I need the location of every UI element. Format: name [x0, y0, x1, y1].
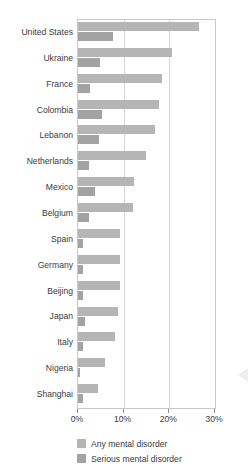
bars-layer: [78, 20, 215, 408]
bar: [78, 384, 98, 393]
bar: [78, 368, 80, 377]
bar: [78, 161, 89, 170]
bar-group: [78, 227, 215, 253]
bar-group: [78, 149, 215, 175]
bar: [78, 342, 83, 351]
bar: [78, 151, 146, 160]
category-label: Nigeria: [0, 363, 73, 373]
bar-group: [78, 305, 215, 331]
bar: [78, 74, 162, 83]
x-tick-mark: [168, 409, 169, 413]
bar: [78, 135, 99, 144]
category-label: Mexico: [0, 182, 73, 192]
x-tick-label: 0%: [71, 414, 83, 424]
bar-group: [78, 123, 215, 149]
category-label: Shanghai: [0, 389, 73, 399]
bar-group: [78, 356, 215, 382]
bar-group: [78, 201, 215, 227]
x-tick-mark: [214, 409, 215, 413]
legend-label: Serious mental disorder: [91, 454, 182, 464]
bar-group: [78, 20, 215, 46]
bar-group: [78, 72, 215, 98]
bar: [78, 239, 83, 248]
bar-group: [78, 330, 215, 356]
category-label: Germany: [0, 260, 73, 270]
category-label: Japan: [0, 311, 73, 321]
bar: [78, 100, 159, 109]
bar: [78, 58, 100, 67]
plot-area: [77, 19, 216, 409]
bar-group: [78, 382, 215, 408]
bar: [78, 177, 134, 186]
category-label: United States: [0, 27, 73, 37]
x-tick-label: 10%: [114, 414, 131, 424]
category-label: France: [0, 79, 73, 89]
category-label: Netherlands: [0, 156, 73, 166]
bar: [78, 307, 118, 316]
bar: [78, 394, 83, 403]
bar: [78, 110, 102, 119]
bar: [78, 332, 115, 341]
category-label: Colombia: [0, 105, 73, 115]
bar: [78, 84, 90, 93]
x-tick-label: 30%: [205, 414, 222, 424]
category-label: Spain: [0, 234, 73, 244]
bar-group: [78, 253, 215, 279]
bar-group: [78, 46, 215, 72]
bar: [78, 22, 199, 31]
category-label: Italy: [0, 337, 73, 347]
x-axis: 0%10%20%30%: [77, 409, 216, 429]
category-label: Lebanon: [0, 130, 73, 140]
bar-group: [78, 279, 215, 305]
cropped-title-fragment: · ·: [130, 0, 140, 2]
chart-legend: Any mental disorderSerious mental disord…: [77, 437, 248, 467]
bar: [78, 255, 120, 264]
bar: [78, 291, 83, 300]
x-tick-mark: [77, 409, 78, 413]
bar: [78, 32, 113, 41]
cropped-top-text: · ·: [0, 0, 248, 12]
x-tick-label: 20%: [160, 414, 177, 424]
legend-item[interactable]: Serious mental disorder: [77, 452, 248, 465]
category-label: Beijing: [0, 286, 73, 296]
bar: [78, 265, 83, 274]
chart-figure: · · United StatesUkraineFranceColombiaLe…: [0, 0, 248, 475]
bar-group: [78, 98, 215, 124]
category-axis-labels: United StatesUkraineFranceColombiaLebano…: [0, 19, 73, 409]
bar: [78, 48, 172, 57]
bar: [78, 125, 155, 134]
legend-label: Any mental disorder: [91, 439, 167, 449]
bar: [78, 317, 85, 326]
category-label: Belgium: [0, 208, 73, 218]
bar: [78, 203, 133, 212]
bar: [78, 281, 120, 290]
x-tick-mark: [123, 409, 124, 413]
legend-swatch-icon: [77, 454, 86, 463]
bar: [78, 213, 89, 222]
bar-group: [78, 175, 215, 201]
right-edge-artifact: [238, 368, 248, 382]
bar: [78, 229, 120, 238]
bar: [78, 187, 95, 196]
legend-item[interactable]: Any mental disorder: [77, 437, 248, 450]
bar: [78, 358, 105, 367]
category-label: Ukraine: [0, 53, 73, 63]
legend-swatch-icon: [77, 439, 86, 448]
